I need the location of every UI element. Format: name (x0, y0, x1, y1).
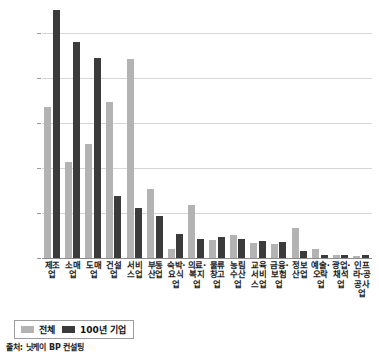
x-axis-label: 물류창고업 (207, 261, 227, 289)
bar-century[interactable] (300, 251, 307, 258)
bar-total[interactable] (353, 256, 360, 258)
bar-century[interactable] (94, 58, 101, 258)
x-axis-label: 서비스업 (125, 261, 145, 280)
bar-century[interactable] (73, 42, 80, 258)
bar-total[interactable] (44, 107, 51, 258)
bars-layer (42, 10, 372, 258)
y-axis-tick-mark (37, 258, 41, 259)
x-axis-label: 예술·오락업 (310, 261, 330, 289)
x-axis-labels: 제조업소매업도매업건설업서비스업부동산업숙박·요식업의료·복지업물류창고업농림수… (42, 261, 372, 319)
bar-century[interactable] (341, 255, 348, 258)
bar-group (166, 10, 187, 258)
bar-group (269, 10, 290, 258)
bar-group (207, 10, 228, 258)
y-axis-tick-mark (37, 213, 41, 214)
bar-total[interactable] (333, 255, 340, 258)
y-axis-tick-mark (37, 33, 41, 34)
bar-total[interactable] (106, 102, 113, 258)
bar-total[interactable] (85, 144, 92, 258)
x-axis-label: 정보산업 (290, 261, 310, 280)
x-axis-label: 교육 서비스업 (249, 261, 269, 289)
bar-group (290, 10, 311, 258)
bar-group (63, 10, 84, 258)
bar-group (186, 10, 207, 258)
bar-total[interactable] (127, 59, 134, 258)
legend-label-total: 전체 (39, 323, 55, 336)
bar-group (125, 10, 146, 258)
bar-group (351, 10, 372, 258)
x-axis-label: 소매업 (63, 261, 83, 280)
bar-century[interactable] (114, 196, 121, 258)
bar-group (331, 10, 352, 258)
bar-century[interactable] (135, 208, 142, 259)
x-axis-label: 제조업 (42, 261, 62, 280)
x-axis-label: 농림수산업 (228, 261, 248, 289)
bar-chart: 0.0%5.0%10.0%15.0%20.0%25.0% 제조업소매업도매업건설… (0, 0, 379, 356)
bar-total[interactable] (188, 205, 195, 258)
bar-century[interactable] (259, 241, 266, 258)
bar-group (228, 10, 249, 258)
y-axis-tick-mark (37, 168, 41, 169)
x-axis-label: 광업·채석업 (331, 261, 351, 289)
bar-total[interactable] (312, 249, 319, 258)
y-axis-tick-mark (37, 78, 41, 79)
bar-total[interactable] (168, 249, 175, 258)
source-note: 출처: 닛케이 BP 컨설팅 (6, 341, 84, 352)
bar-century[interactable] (53, 10, 60, 258)
bar-total[interactable] (292, 228, 299, 258)
x-axis-label: 도매업 (84, 261, 104, 280)
x-axis-label: 금융·보험업 (269, 261, 289, 289)
bar-group (83, 10, 104, 258)
bar-group (248, 10, 269, 258)
bar-century[interactable] (156, 216, 163, 258)
legend-label-century: 100년 기업 (80, 323, 126, 336)
x-axis-label: 인프라·공공사업 (352, 261, 372, 299)
chart-legend: 전체 100년 기업 (14, 320, 134, 339)
x-axis-label: 숙박·요식업 (166, 261, 186, 289)
bar-century[interactable] (321, 255, 328, 258)
plot-area: 0.0%5.0%10.0%15.0%20.0%25.0% (42, 10, 372, 258)
x-axis-label: 건설업 (104, 261, 124, 280)
bar-group (104, 10, 125, 258)
legend-item-total[interactable]: 전체 (21, 323, 55, 336)
bar-century[interactable] (197, 239, 204, 258)
total-swatch-icon (21, 326, 34, 333)
bar-century[interactable] (218, 237, 225, 258)
bar-century[interactable] (238, 239, 245, 258)
bar-century[interactable] (362, 255, 369, 258)
bar-century[interactable] (279, 242, 286, 258)
x-axis-label: 의료·복지업 (187, 261, 207, 289)
bar-total[interactable] (209, 240, 216, 258)
legend-item-century[interactable]: 100년 기업 (62, 323, 126, 336)
bar-total[interactable] (65, 162, 72, 258)
bar-total[interactable] (250, 243, 257, 258)
bar-total[interactable] (230, 235, 237, 258)
bar-group (310, 10, 331, 258)
century-swatch-icon (62, 326, 75, 333)
gridline-0.0% (42, 258, 372, 259)
bar-total[interactable] (271, 244, 278, 258)
bar-group (145, 10, 166, 258)
x-axis-label: 부동산업 (145, 261, 165, 280)
bar-total[interactable] (147, 189, 154, 258)
bar-century[interactable] (176, 234, 183, 258)
bar-group (42, 10, 63, 258)
y-axis-tick-mark (37, 123, 41, 124)
